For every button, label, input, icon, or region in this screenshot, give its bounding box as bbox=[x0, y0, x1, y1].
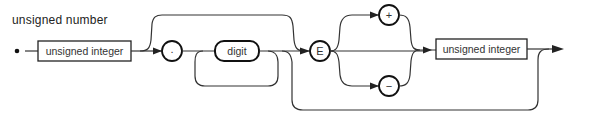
node-label: unsigned integer bbox=[443, 43, 521, 55]
node-label: digit bbox=[227, 45, 246, 57]
end-arrow-icon bbox=[552, 45, 564, 53]
minus-sign-node: − bbox=[379, 76, 399, 96]
start-dot bbox=[15, 49, 20, 54]
unsigned-integer-node-2: unsigned integer bbox=[436, 39, 527, 59]
arrow-icon bbox=[300, 48, 310, 55]
decimal-point-node: . bbox=[162, 41, 182, 61]
plus-sign-node: + bbox=[379, 5, 399, 25]
arrow-icon bbox=[370, 83, 379, 90]
arrow-icon bbox=[370, 12, 379, 19]
syntax-diagram: unsigned integer . digit E + − bbox=[0, 0, 592, 123]
node-label: E bbox=[316, 45, 323, 57]
arrow-icon bbox=[423, 47, 432, 54]
unsigned-integer-node-1: unsigned integer bbox=[38, 41, 131, 61]
node-label: − bbox=[386, 80, 392, 92]
arrow-icon bbox=[153, 48, 162, 55]
node-label: . bbox=[170, 43, 173, 55]
digit-node: digit bbox=[215, 41, 259, 61]
node-label: unsigned integer bbox=[46, 45, 124, 57]
node-label: + bbox=[386, 9, 392, 21]
exponent-e-node: E bbox=[310, 41, 330, 61]
